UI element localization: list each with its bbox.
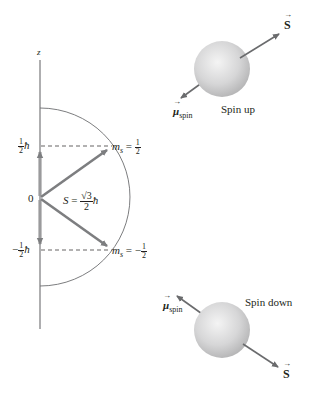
- spin-up-s-label: S: [284, 19, 291, 31]
- z-axis-label: z: [37, 48, 41, 57]
- ms-minus-half-label: ms = −12: [112, 243, 147, 260]
- spin-up-caption: Spin up: [221, 104, 255, 115]
- spin-up-mu-label: μspin: [173, 106, 192, 120]
- spin-down-s-label: S: [283, 368, 290, 380]
- spin-up-sphere: [194, 41, 250, 97]
- spin-vector-up: [41, 150, 107, 197]
- spin-up-s-arrow: [240, 34, 279, 58]
- ms-plus-half-label: ms = 12: [112, 139, 141, 156]
- spin-down-sphere: [194, 302, 250, 358]
- origin-label: 0: [28, 193, 34, 204]
- spin-diagram-canvas: [0, 0, 314, 402]
- spin-down-s-arrow: [243, 344, 278, 367]
- spin-down-mu-label: μspin: [163, 300, 182, 314]
- spin-down-caption: Spin down: [245, 297, 292, 308]
- lower-level-label: −12ħ: [12, 242, 30, 259]
- upper-level-label: 12ħ: [18, 138, 30, 155]
- spin-magnitude-label: S = √32ħ: [63, 191, 98, 212]
